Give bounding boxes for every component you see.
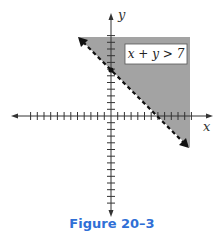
inequality-graph: y x x + y > 7 [0,0,224,220]
x-axis-right-arrow-icon [206,114,213,119]
inequality-label: x + y > 7 [128,47,185,61]
y-axis-up-arrow-icon [109,13,114,20]
x-axis-left-arrow-icon [11,114,18,119]
y-axis-label: y [117,7,126,22]
x-axis-label: x [203,119,211,134]
figure-caption: Figure 20–3 [0,216,224,231]
y-intercept-point [108,67,113,72]
